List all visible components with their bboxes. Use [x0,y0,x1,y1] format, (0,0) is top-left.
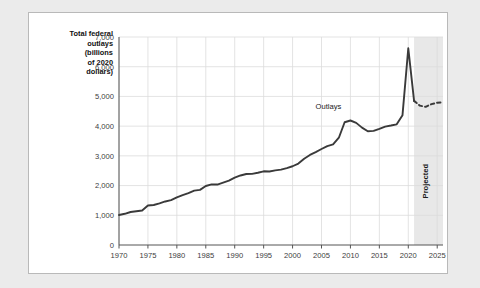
series-line-outlays [119,48,414,215]
y-tick-label: 2,000 [95,181,114,190]
x-tick-labels: 1970197519801985199019952000200520102015… [111,251,446,260]
y-tick-label: 1,000 [95,211,114,220]
x-tick-label: 2025 [429,251,446,260]
x-tick-label: 2015 [371,251,388,260]
axis-lines [119,37,443,249]
y-tick-label: 6,000 [95,63,114,72]
x-tick-label: 2005 [313,251,330,260]
x-tick-label: 1975 [139,251,156,260]
x-tick-label: 2010 [342,251,359,260]
x-tick-label: 2020 [400,251,417,260]
series-annotation-outlays: Outlays [316,102,342,111]
x-tick-label: 1985 [197,251,214,260]
x-tick-label: 1995 [255,251,272,260]
data-series [119,48,443,215]
y-tick-label: 3,000 [95,152,114,161]
x-tick-label: 1970 [111,251,128,260]
plot-area: 01,0002,0003,0004,0005,0006,0007,000 197… [29,13,447,273]
y-tick-label: 5,000 [95,92,114,101]
y-tick-label: 7,000 [95,33,114,42]
projected-annotation: Projected [421,163,430,198]
gridlines [119,37,443,245]
x-tick-label: 1990 [226,251,243,260]
x-tick-label: 1980 [168,251,185,260]
projected-shade [414,37,443,245]
y-tick-label: 4,000 [95,122,114,131]
chart-figure: Total federal outlays (billions of 2020 … [28,12,448,274]
y-tick-label: 0 [110,241,114,250]
chart-svg: 01,0002,0003,0004,0005,0006,0007,000 197… [29,13,449,275]
annotations: OutlaysProjected [316,102,431,198]
x-tick-label: 2000 [284,251,301,260]
y-tick-labels: 01,0002,0003,0004,0005,0006,0007,000 [95,33,114,250]
